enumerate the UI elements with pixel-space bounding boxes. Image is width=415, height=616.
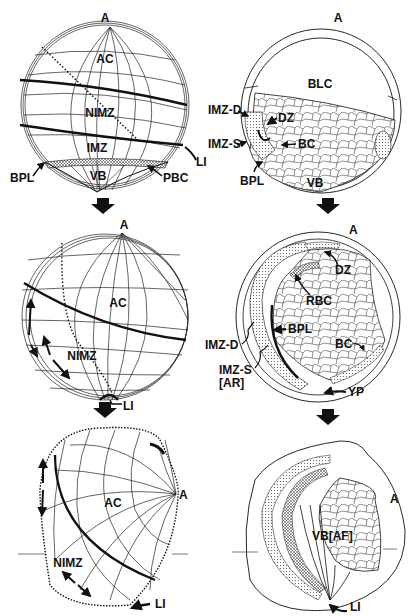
nimz-boundary bbox=[24, 283, 186, 340]
label-li: LI bbox=[155, 597, 166, 611]
label-animal-pole: A bbox=[334, 11, 343, 25]
arrow-bc bbox=[282, 144, 296, 145]
label-animal-cap: AC bbox=[96, 52, 114, 66]
label-animal-pole: A bbox=[120, 218, 129, 232]
label-nimz: NIMZ bbox=[67, 349, 96, 363]
label-animal-pole: A bbox=[390, 492, 399, 506]
panel-right-3: A VB[AF] LI bbox=[232, 441, 405, 614]
label-imz: IMZ bbox=[87, 141, 108, 155]
label-nimz: NIMZ bbox=[85, 106, 114, 120]
movement-arrow-2 bbox=[42, 490, 43, 515]
label-nimz: NIMZ bbox=[53, 556, 82, 570]
movement-arrow-3 bbox=[63, 572, 75, 583]
arrow-bpl bbox=[33, 163, 44, 176]
label-yp: YP bbox=[348, 385, 364, 399]
label-imz-d: IMZ-D bbox=[205, 338, 239, 352]
globe-outline bbox=[22, 233, 188, 400]
stage-arrow-right-2 bbox=[316, 409, 340, 425]
label-bpl: BPL bbox=[288, 322, 312, 336]
label-imz-d: IMZ-D bbox=[208, 103, 242, 117]
nimz-upper-boundary bbox=[20, 80, 187, 105]
label-animal-pole: A bbox=[101, 11, 110, 25]
label-pbc: PBC bbox=[163, 171, 189, 185]
label-vegetal-base: VB bbox=[307, 176, 324, 190]
stage-arrow-right-1 bbox=[316, 198, 340, 214]
movement-arrow-4 bbox=[78, 585, 90, 596]
label-ar: [AR] bbox=[219, 376, 244, 390]
arrow-li bbox=[185, 147, 196, 160]
label-imz-s: IMZ-S bbox=[219, 363, 252, 377]
label-li: LI bbox=[123, 399, 134, 413]
label-animal-pole: A bbox=[349, 223, 358, 237]
panel-right-1: A BLC IMZ-D IMZ-S DZ BC BPL VB bbox=[208, 11, 401, 193]
label-li: LI bbox=[196, 155, 207, 169]
label-bc: BC bbox=[298, 137, 316, 151]
label-bpl: BPL bbox=[10, 171, 34, 185]
panel-left-1: A AC NIMZ IMZ VB BPL PBC LI bbox=[10, 11, 207, 192]
panel-right-2: A DZ RBC BPL IMZ-D IMZ-S [AR] BC YP bbox=[205, 223, 400, 402]
imz-region-right bbox=[375, 131, 391, 159]
label-blastocoel: BLC bbox=[308, 77, 333, 91]
arrow-li bbox=[132, 604, 150, 608]
label-li: LI bbox=[350, 600, 361, 614]
label-vb-af: VB[AF] bbox=[312, 529, 353, 543]
label-bc: BC bbox=[335, 337, 353, 351]
embryo-gastrulation-diagram: A AC NIMZ IMZ VB BPL PBC LI A BLC IMZ-D … bbox=[0, 0, 415, 616]
blastopore-crest-arrow bbox=[150, 444, 164, 454]
label-animal-cap: AC bbox=[109, 296, 127, 310]
dotted-meridian bbox=[62, 243, 112, 393]
label-dz: DZ bbox=[278, 111, 294, 125]
label-imz-s: IMZ-S bbox=[208, 137, 241, 151]
panel-left-3: A AC NIMZ LI bbox=[18, 428, 188, 612]
arrow-bpl bbox=[274, 329, 286, 330]
stage-arrow-left-1 bbox=[91, 198, 115, 214]
label-animal-cap: AC bbox=[104, 496, 122, 510]
label-bpl: BPL bbox=[240, 174, 264, 188]
label-vegetal-base: VB bbox=[90, 169, 107, 183]
panel-left-2: A AC NIMZ LI bbox=[22, 218, 188, 413]
label-rbc: RBC bbox=[306, 294, 332, 308]
label-animal-pole: A bbox=[179, 488, 188, 502]
